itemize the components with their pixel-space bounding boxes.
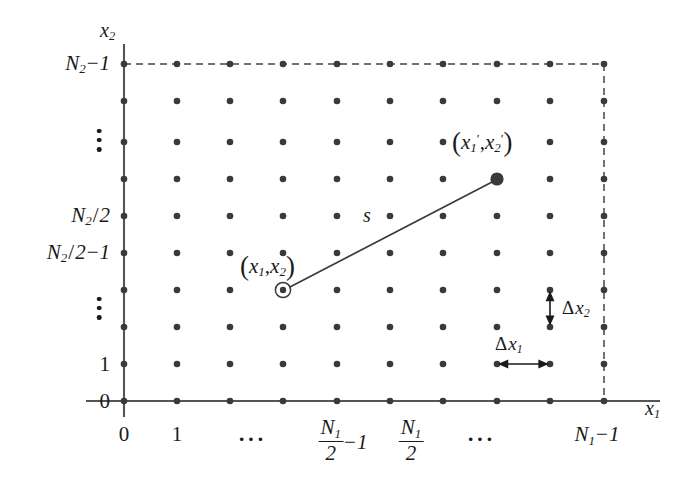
x-tick-n1-minus-1: N1−1 bbox=[575, 424, 620, 447]
figure-container: N2−1 N2/2 N2/2−1 1 0 x2 0 1 ··· N12−1 N1… bbox=[0, 0, 684, 488]
x-tick-n1-over-2: N12 bbox=[399, 417, 424, 465]
lattice-dot-grid bbox=[121, 61, 608, 405]
source-point-label: (x1,x2) bbox=[240, 253, 295, 280]
field-point-label: (x1′,x2′) bbox=[452, 129, 513, 156]
y-axis-lower-ellipsis bbox=[97, 292, 102, 324]
y-axis-name: x2 bbox=[100, 20, 115, 43]
field-point-marker bbox=[490, 172, 503, 185]
source-point-marker bbox=[275, 282, 290, 297]
x-axis-left-ellipsis: ··· bbox=[238, 428, 266, 450]
y-axis-upper-ellipsis bbox=[97, 124, 102, 156]
x-axis-name: x1 bbox=[645, 398, 660, 421]
y-tick-n2-minus-1: N2−1 bbox=[10, 53, 110, 76]
y-tick-n2-over-2: N2/2 bbox=[10, 205, 110, 228]
delta-x1-label: Δx1 bbox=[494, 334, 523, 356]
y-tick-one: 1 bbox=[10, 354, 110, 375]
distance-segment bbox=[288, 181, 494, 288]
distance-label: s bbox=[363, 205, 371, 225]
y-tick-zero: 0 bbox=[10, 391, 110, 412]
x-tick-one: 1 bbox=[172, 424, 183, 445]
x-axis-right-ellipsis: ··· bbox=[467, 428, 495, 450]
y-tick-n2-over-2-minus-1: N2/2−1 bbox=[0, 242, 110, 265]
x-tick-n1-over-2-minus-1: N12−1 bbox=[319, 417, 368, 465]
x-tick-zero: 0 bbox=[119, 424, 130, 445]
delta-x2-label: Δx2 bbox=[561, 298, 590, 320]
